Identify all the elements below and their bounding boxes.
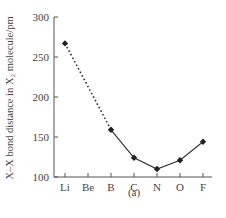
solid-segment [111, 130, 203, 169]
x-tick-label: B [107, 181, 114, 193]
y-tick-label: 150 [33, 131, 50, 143]
x-tick-label: O [176, 181, 184, 193]
x-tick-label: Li [60, 181, 70, 193]
y-axis-label: X–X bond distance in X₂ molecule/pm [4, 16, 15, 179]
data-point-marker [154, 166, 160, 172]
bond-distance-chart: 100150200250300 LiBeBCNOF X–X bond dista… [0, 0, 226, 218]
dotted-segment [65, 43, 111, 129]
x-tick-label: N [153, 181, 161, 193]
data-series [62, 40, 206, 172]
y-tick-label: 100 [33, 171, 50, 183]
y-tick-label: 300 [33, 11, 50, 23]
y-tick-label: 250 [33, 51, 50, 63]
chart-caption: (a) [128, 186, 141, 199]
x-tick-label: F [200, 181, 206, 193]
x-tick-label: Be [82, 181, 94, 193]
y-axis: 100150200250300 [33, 11, 59, 183]
y-tick-label: 200 [33, 91, 50, 103]
data-point-marker [62, 40, 68, 46]
